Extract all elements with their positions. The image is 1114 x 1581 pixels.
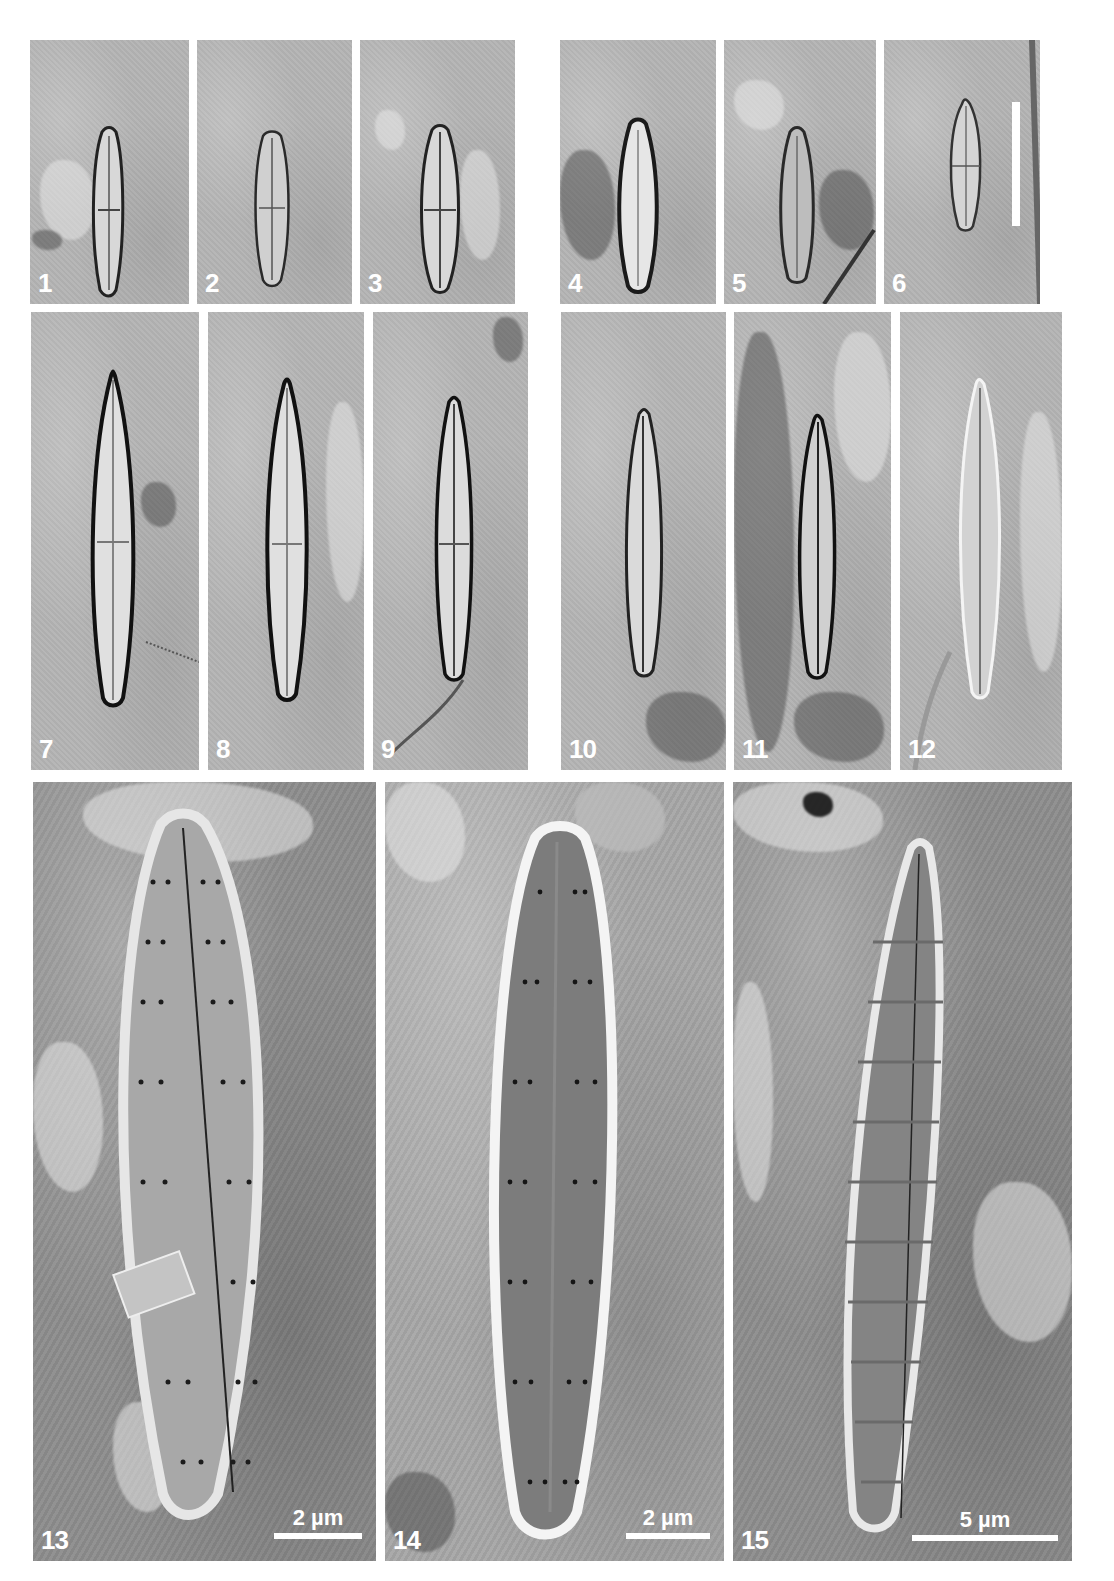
- diatom-valve-icon: [900, 312, 1062, 770]
- figure-number: 8: [216, 736, 229, 762]
- figure-number: 1: [38, 270, 51, 296]
- scale-bar-label: 5 µm: [912, 1507, 1058, 1533]
- figure-number: 2: [205, 270, 218, 296]
- figure-number: 9: [381, 736, 394, 762]
- panel-fig-11: 11: [734, 312, 891, 770]
- panel-fig-2: 2: [197, 40, 352, 304]
- scale-bar-5um: 5 µm: [912, 1507, 1058, 1541]
- diatom-valve-icon: [33, 782, 376, 1561]
- figure-number: 14: [393, 1527, 420, 1553]
- diatom-valve-icon: [31, 312, 199, 770]
- scale-bar-label: 2 µm: [626, 1505, 710, 1531]
- figure-number: 4: [568, 270, 581, 296]
- panel-fig-12: 12: [900, 312, 1062, 770]
- figure-number: 7: [39, 736, 52, 762]
- panel-fig-1: 1: [30, 40, 189, 304]
- scale-bar-2um: 2 µm: [274, 1505, 362, 1539]
- panel-fig-7: 7: [31, 312, 199, 770]
- figure-number: 13: [41, 1527, 68, 1553]
- diatom-valve-icon: [385, 782, 724, 1561]
- scale-bar-line: [912, 1535, 1058, 1541]
- figure-number: 15: [741, 1527, 768, 1553]
- panel-fig-15: 15 5 µm: [733, 782, 1072, 1561]
- diatom-valve-icon: [561, 312, 726, 770]
- figure-number: 3: [368, 270, 381, 296]
- scale-bar-line: [274, 1533, 362, 1539]
- panel-fig-3: 3: [360, 40, 515, 304]
- figure-number: 12: [908, 736, 935, 762]
- panel-fig-6: 6: [884, 40, 1040, 304]
- panel-fig-4: 4: [560, 40, 716, 304]
- diatom-valve-icon: [734, 312, 891, 770]
- panel-fig-14: 14 2 µm: [385, 782, 724, 1561]
- figure-number: 6: [892, 270, 905, 296]
- diatom-valve-icon: [560, 40, 716, 304]
- panel-fig-9: 9: [373, 312, 528, 770]
- diatom-valve-icon: [208, 312, 364, 770]
- scale-bar: [1012, 102, 1020, 226]
- scale-bar-2um: 2 µm: [626, 1505, 710, 1539]
- diatom-valve-icon: [197, 40, 352, 304]
- scale-bar-label: 2 µm: [274, 1505, 362, 1531]
- panel-fig-8: 8: [208, 312, 364, 770]
- panel-fig-5: 5: [724, 40, 876, 304]
- scale-bar-line: [626, 1533, 710, 1539]
- diatom-valve-icon: [30, 40, 189, 304]
- diatom-valve-icon: [733, 782, 1072, 1561]
- panel-fig-10: 10: [561, 312, 726, 770]
- diatom-valve-icon: [360, 40, 515, 304]
- figure-number: 10: [569, 736, 596, 762]
- diatom-valve-icon: [724, 40, 876, 304]
- panel-fig-13: 13 2 µm: [33, 782, 376, 1561]
- figure-number: 5: [732, 270, 745, 296]
- figure-plate: 1 2 3 4: [0, 0, 1114, 1581]
- diatom-valve-icon: [373, 312, 528, 770]
- figure-number: 11: [742, 736, 768, 762]
